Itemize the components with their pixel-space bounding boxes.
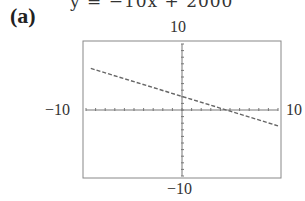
data-line: [91, 68, 278, 125]
plot: [0, 0, 305, 201]
